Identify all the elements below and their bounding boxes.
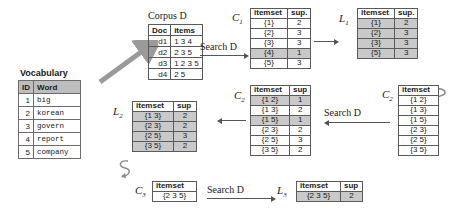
l1-cell-itemset: {1}	[358, 19, 395, 29]
table-row: {2 3} 2	[133, 122, 197, 132]
table-row: {1 2}	[399, 96, 439, 106]
table-row: {1 3}	[399, 106, 439, 116]
c2-counted-cell-sup: 2	[290, 106, 311, 116]
table-row: {1} 2	[358, 19, 418, 29]
vocabulary-header-word: Word	[34, 81, 81, 94]
arrow-c2-to-l2-icon	[218, 120, 246, 121]
c2-candidates-cell-itemset: {3 5}	[399, 146, 439, 156]
c2-counted-cell-itemset: {3 5}	[251, 146, 290, 156]
c2-counted-cell-itemset: {1 3}	[251, 106, 290, 116]
l1-cell-itemset: {2}	[358, 29, 395, 39]
l1-cell-sup: 3	[395, 49, 418, 59]
l3-cell-sup: 2	[341, 192, 363, 202]
l1-cell-itemset: {5}	[358, 49, 395, 59]
c2-candidates-cell-itemset: {2 3}	[399, 126, 439, 136]
c2-counted-cell-itemset: {1 2}	[251, 96, 290, 106]
c2-candidates-cell-itemset: {1 5}	[399, 116, 439, 126]
corpus-cell-items: 1 2 3 5	[171, 58, 202, 69]
table-row: d1 1 3 4	[149, 36, 203, 47]
table-row: {5} 3	[251, 59, 311, 69]
l2-label: L2	[113, 105, 123, 120]
c2-counted-cell-sup: 1	[290, 96, 311, 106]
vocabulary-cell-id: 1	[19, 94, 34, 107]
c2-counted-cell-itemset: {2 3}	[251, 126, 290, 136]
table-row: {2 3}	[399, 126, 439, 136]
table-header-row: ID Word	[19, 81, 81, 94]
l1-cell-sup: 3	[395, 39, 418, 49]
l2-table: itemset sup {1 3} 2 {2 3} 2 {2 5} 3 {3 5…	[132, 101, 197, 152]
l2-cell-itemset: {2 5}	[133, 132, 174, 142]
table-row: d2 2 3 5	[149, 47, 203, 58]
table-row: {2 5} 3	[251, 136, 311, 146]
search-d-label-1: Search D	[200, 41, 237, 52]
corpus-table: Doc items d1 1 3 4 d2 2 3 5 d3 1 2 3 5 d…	[148, 24, 203, 80]
table-header-row: itemset sup	[251, 86, 311, 96]
corpus-header-items: items	[171, 25, 202, 36]
l2-cell-itemset: {2 3}	[133, 122, 174, 132]
l3-header-sup: sup	[341, 182, 363, 192]
c2-counted-header-sup: sup	[290, 86, 311, 96]
corpus-cell-doc: d1	[149, 36, 171, 47]
table-header-row: itemset sup	[133, 102, 197, 112]
l3-cell-itemset: {2 3 5}	[297, 192, 341, 202]
c2-counted-table: itemset sup {1 2} 1 {1 3} 2 {1 5} 1 {2 3…	[250, 85, 311, 156]
l1-cell-sup: 3	[395, 29, 418, 39]
join-curl-arrow-icon-2	[114, 158, 136, 180]
l2-cell-sup: 2	[174, 142, 197, 152]
table-row: {2 5}	[399, 136, 439, 146]
l1-header-sup: sup.	[395, 9, 418, 19]
c2-candidates-table: itemset {1 2} {1 3} {1 5} {2 3} {2 5} {3…	[398, 85, 439, 156]
c2-counted-cell-sup: 3	[290, 136, 311, 146]
table-header-row: itemset sup.	[251, 9, 311, 19]
table-row: {3 5} 2	[133, 142, 197, 152]
c2-candidates-label: C2	[382, 88, 393, 103]
l3-label: L3	[277, 184, 287, 199]
c1-cell-itemset: {1}	[251, 19, 288, 29]
vocabulary-cell-id: 3	[19, 120, 34, 133]
vocabulary-table: ID Word 1 big 2 korean 3 govern 4 report…	[18, 80, 81, 159]
table-row: {1 2} 1	[251, 96, 311, 106]
table-row: {3 5}	[399, 146, 439, 156]
c2-candidates-cell-itemset: {1 3}	[399, 106, 439, 116]
search-d-label-2: Search D	[324, 107, 361, 118]
table-row: {1 5} 1	[251, 116, 311, 126]
table-header-row: itemset sup.	[358, 9, 418, 19]
c2-candidates-cell-itemset: {1 2}	[399, 96, 439, 106]
c1-cell-sup: 3	[288, 39, 311, 49]
table-row: {3 5} 2	[251, 146, 311, 156]
arrow-c1-to-l1-icon	[314, 41, 338, 42]
search-d-label-3: Search D	[207, 184, 244, 195]
table-header-row: itemset sup	[297, 182, 363, 192]
table-row: {3} 3	[251, 39, 311, 49]
corpus-cell-items: 2 3 5	[171, 47, 202, 58]
c2-counted-header-itemset: itemset	[251, 86, 290, 96]
vocabulary-cell-id: 2	[19, 107, 34, 120]
c2-counted-cell-sup: 2	[290, 126, 311, 136]
c1-cell-sup: 3	[288, 29, 311, 39]
corpus-header-doc: Doc	[149, 25, 171, 36]
c2-counted-cell-sup: 1	[290, 116, 311, 126]
vocabulary-header-id: ID	[19, 81, 34, 94]
c2-candidates-header-itemset: itemset	[399, 86, 439, 96]
table-row: {4} 1	[251, 49, 311, 59]
l2-cell-sup: 3	[174, 132, 197, 142]
table-row: {1} 2	[251, 19, 311, 29]
corpus-title: Corpus D	[148, 10, 187, 21]
vocabulary-cell-word: company	[34, 146, 81, 159]
arrow-c2-candidates-to-c2-counted-icon	[325, 122, 390, 123]
c3-cell-itemset: {2 3 5}	[153, 192, 197, 202]
table-row: {1 5}	[399, 116, 439, 126]
table-header-row: Doc items	[149, 25, 203, 36]
c1-table: itemset sup. {1} 2 {2} 3 {3} 3 {4} 1 {5}…	[250, 8, 311, 69]
table-row: {2 3 5} 2	[297, 192, 363, 202]
l1-table: itemset sup. {1} 2 {2} 3 {3} 3 {5} 3	[357, 8, 418, 59]
table-row: {2} 3	[251, 29, 311, 39]
c2-candidates-cell-itemset: {2 5}	[399, 136, 439, 146]
table-row: 1 big	[19, 94, 81, 107]
table-row: 5 company	[19, 146, 81, 159]
l2-header-itemset: itemset	[133, 102, 174, 112]
table-row: 2 korean	[19, 107, 81, 120]
table-row: d3 1 2 3 5	[149, 58, 203, 69]
c1-cell-sup: 1	[288, 49, 311, 59]
c1-cell-itemset: {2}	[251, 29, 288, 39]
